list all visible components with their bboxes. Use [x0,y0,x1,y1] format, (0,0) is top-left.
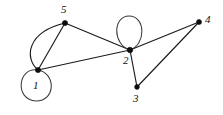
edge-1-5-curve[interactable] [30,23,65,70]
vertex-5[interactable] [62,20,67,25]
vertex-label-2: 2 [123,55,129,66]
graph-svg [0,0,223,115]
vertex-label-1: 1 [33,80,39,91]
vertex-4[interactable] [197,20,202,25]
vertex-3[interactable] [135,85,140,90]
vertex-group [35,20,201,90]
edge-1-2[interactable] [38,50,130,70]
edge-2-4[interactable] [130,22,199,50]
edge-group [30,22,199,87]
vertex-label-4: 4 [205,14,211,25]
vertex-1[interactable] [35,67,40,72]
edge-1-5-line[interactable] [38,23,65,70]
self-loop-node-2[interactable] [117,16,142,50]
vertex-2[interactable] [127,47,133,53]
vertex-label-3: 3 [133,93,139,104]
edge-5-2[interactable] [65,23,130,50]
graph-diagram-canvas: 1 2 3 4 5 [0,0,223,115]
vertex-label-5: 5 [61,4,67,15]
edge-3-4[interactable] [137,22,199,87]
edge-2-3[interactable] [130,50,137,87]
